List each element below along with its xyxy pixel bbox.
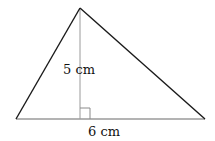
triangle-diagram: 5 cm 6 cm bbox=[0, 0, 215, 141]
triangle-right-side bbox=[80, 8, 205, 119]
right-angle-marker bbox=[80, 108, 90, 119]
base-label: 6 cm bbox=[88, 124, 120, 139]
height-label: 5 cm bbox=[63, 62, 95, 77]
